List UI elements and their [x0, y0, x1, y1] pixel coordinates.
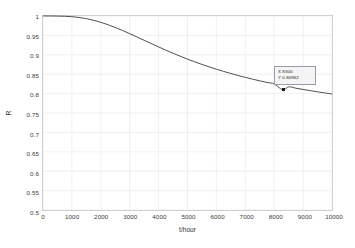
- y-tick-label: 0.85: [27, 71, 39, 78]
- y-tick-label: 0.95: [27, 32, 39, 39]
- datatip-box[interactable]: X 8300 Y 0.80962: [274, 66, 316, 85]
- y-tick-label: 0.7: [30, 130, 39, 137]
- y-tick-label: 0.65: [27, 150, 39, 157]
- x-tick-label: 7000: [240, 213, 254, 220]
- x-tick-label: 4000: [152, 213, 166, 220]
- datatip-y-value: Y 0.80962: [278, 75, 312, 81]
- y-tick-label: 0.55: [27, 189, 39, 196]
- x-tick-label: 5000: [181, 213, 195, 220]
- x-tick-label: 0: [41, 213, 45, 220]
- x-axis-title: t/hour: [42, 226, 333, 233]
- x-tick-label: 3000: [123, 213, 137, 220]
- datatip-marker: [282, 88, 285, 91]
- y-tick-label: 0.75: [27, 111, 39, 118]
- x-tick-label: 10000: [325, 213, 343, 220]
- x-tick-label: 8000: [269, 213, 283, 220]
- y-tick-label: 0.6: [30, 169, 39, 176]
- tick-label-layer: 0.50.550.60.650.70.750.80.850.90.9510100…: [43, 16, 332, 210]
- x-tick-label: 9000: [298, 213, 312, 220]
- plot-area: 0.50.550.60.650.70.750.80.850.90.9510100…: [42, 15, 333, 211]
- x-tick-label: 2000: [94, 213, 108, 220]
- x-tick-label: 6000: [211, 213, 225, 220]
- figure-canvas: 0.50.550.60.650.70.750.80.850.90.9510100…: [0, 0, 355, 248]
- y-tick-label: 0.8: [30, 91, 39, 98]
- y-axis-title: R: [5, 111, 12, 116]
- y-tick-label: 0.5: [30, 209, 39, 216]
- y-tick-label: 0.9: [30, 52, 39, 59]
- y-tick-label: 1: [35, 13, 39, 20]
- x-tick-label: 1000: [65, 213, 79, 220]
